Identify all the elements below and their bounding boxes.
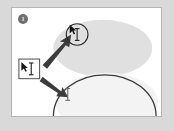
faint-background-ellipse <box>55 73 158 116</box>
source-cursor-widget[interactable] <box>19 59 40 79</box>
figure-root: 1 <box>0 0 174 131</box>
figure-panel: 1 <box>11 7 162 117</box>
figure-canvas <box>12 8 161 116</box>
